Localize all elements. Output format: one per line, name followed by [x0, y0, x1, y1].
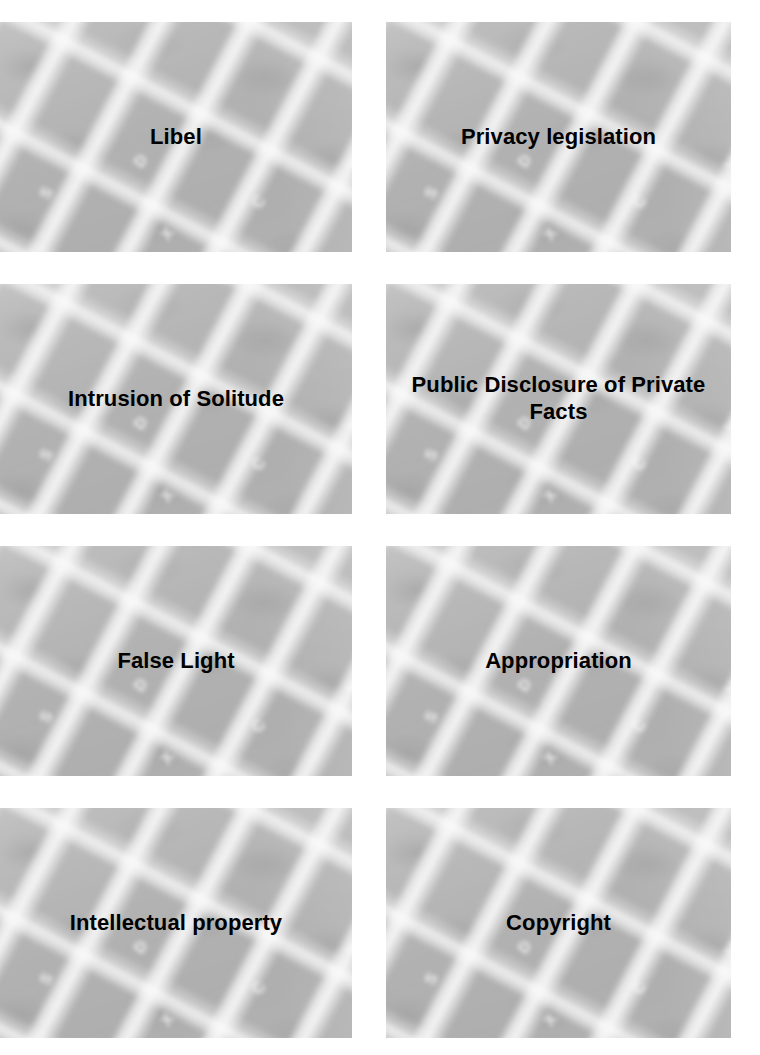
flashcard-label: Public Disclosure of Private Facts: [386, 372, 731, 426]
flashcard-intrusion-of-solitude[interactable]: W A S D X C V Intrusion of Solitude: [0, 284, 352, 514]
flashcard-public-disclosure-of-private-facts[interactable]: W A S D X C V Public Disclosure of Priva…: [386, 284, 731, 514]
flashcard-appropriation[interactable]: W A S D X C V Appropriation: [386, 546, 731, 776]
flashcard-false-light[interactable]: W A S D X C V False Light: [0, 546, 352, 776]
flashcard-label: Privacy legislation: [386, 124, 731, 151]
flashcard-libel[interactable]: W A S D X C V Libel: [0, 22, 352, 252]
flashcard-grid: W A S D X C V Libel W A S D X C: [0, 0, 760, 1038]
flashcard-label: False Light: [0, 648, 352, 675]
flashcard-copyright[interactable]: W A S D X C V Copyright: [386, 808, 731, 1038]
flashcard-intellectual-property[interactable]: W A S D X C V Intellectual property: [0, 808, 352, 1038]
flashcard-label: Libel: [0, 124, 352, 151]
flashcard-label: Intellectual property: [0, 910, 352, 937]
flashcard-label: Copyright: [386, 910, 731, 937]
flashcard-label: Intrusion of Solitude: [0, 386, 352, 413]
flashcard-privacy-legislation[interactable]: W A S D X C V Privacy legislation: [386, 22, 731, 252]
flashcard-label: Appropriation: [386, 648, 731, 675]
